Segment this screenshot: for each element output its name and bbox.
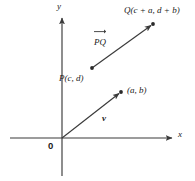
origin-label: 0 (48, 141, 53, 151)
vector-v-arrow (62, 94, 119, 139)
vector-pq-label-group: PQ (94, 32, 106, 48)
point-p-label: P(c, d) (59, 74, 84, 83)
point-q-label: Q(c + a, d + b) (124, 6, 180, 15)
vector-pq-label: PQ (94, 38, 106, 47)
pq-over-arrow-icon (94, 29, 106, 34)
point-p-marker (90, 66, 94, 70)
y-axis-label: y (57, 2, 61, 11)
diagram-canvas (0, 0, 195, 181)
vector-diagram-figure: x y 0 Q(c + a, d + b) P(c, d) (a, b) PQ … (0, 0, 195, 181)
point-ab-marker (119, 90, 123, 94)
point-ab-label: (a, b) (127, 86, 147, 95)
vector-v-label: v (102, 114, 106, 123)
point-q-marker (151, 22, 155, 26)
x-axis-label: x (178, 130, 182, 139)
